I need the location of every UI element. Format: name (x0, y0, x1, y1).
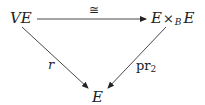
times-symbol: × (163, 11, 174, 26)
label-iso: ≅ (89, 4, 99, 16)
fiber-product-base: B (175, 17, 182, 27)
node-fiber-product: E×BE (151, 11, 194, 27)
node-ve-label: VE (10, 9, 32, 27)
commutative-diagram: VE E×BE E ≅ r pr2 (0, 0, 205, 105)
arrow-left (22, 27, 88, 88)
label-pr-sub: 2 (151, 64, 157, 74)
label-pr2: pr2 (136, 59, 156, 74)
label-pr: pr (136, 58, 151, 73)
fiber-product-right: E (183, 9, 194, 27)
node-e: E (92, 90, 103, 105)
fiber-product-left: E (151, 9, 162, 27)
node-e-label: E (92, 88, 103, 105)
node-ve: VE (10, 11, 32, 26)
label-r: r (48, 58, 54, 71)
